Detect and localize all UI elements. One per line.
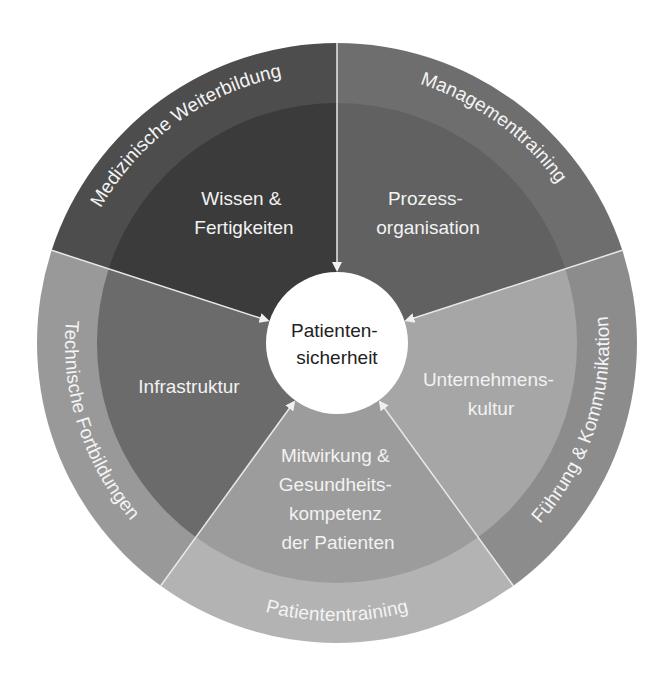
center-line-2: sicherheit [296, 347, 378, 368]
center-circle [266, 272, 408, 414]
inner-label-infrastruktur: Infrastruktur [138, 376, 240, 397]
diagram-canvas: Patienten- sicherheit Medizinische Weite… [0, 0, 663, 678]
patient-safety-diagram: Patienten- sicherheit Medizinische Weite… [0, 0, 663, 678]
center-line-1: Patienten- [291, 320, 378, 341]
